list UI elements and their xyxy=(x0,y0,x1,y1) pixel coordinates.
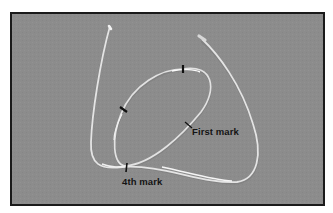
catheter-tip-left xyxy=(109,26,111,29)
fourth-mark-tick xyxy=(126,163,127,172)
fourth-mark-label: 4th mark xyxy=(122,177,162,187)
photo-background xyxy=(12,14,323,204)
photo-frame: First mark 4th mark xyxy=(10,12,325,206)
catheter-illustration xyxy=(12,14,323,204)
first-mark-label: First mark xyxy=(192,127,239,137)
